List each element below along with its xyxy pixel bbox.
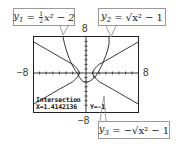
y1-leader	[60, 26, 68, 35]
intersection-y-value: Y=-1	[90, 104, 105, 111]
graph-plot	[0, 0, 179, 144]
curve-y2-left	[34, 42, 79, 73]
intersection-x-value: X=1.4142136	[36, 104, 77, 111]
curve-y2-right	[93, 42, 138, 73]
y2-leader	[106, 26, 116, 37]
curve-y3-right	[93, 73, 138, 104]
